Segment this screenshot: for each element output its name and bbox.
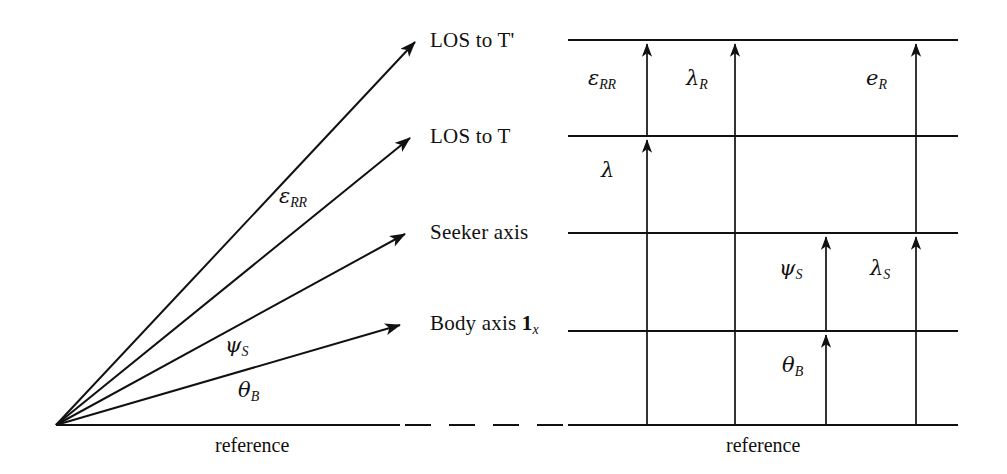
psi-s-subscript: S: [795, 267, 802, 282]
right-panel-axis-lines: [568, 40, 958, 425]
angle-label-theta-b: θB: [238, 380, 259, 404]
ray-seeker-axis: [56, 234, 405, 425]
measure-label-e-r: eR: [866, 68, 887, 92]
epsilon-rr-subscript: RR: [290, 195, 307, 210]
label-seeker-axis: Seeker axis: [430, 222, 528, 243]
measure-label-lambda: λ: [601, 160, 614, 184]
e-glyph: e: [866, 66, 878, 90]
measure-label-lambda-s: λS: [870, 258, 890, 282]
measure-label-theta-b: θB: [782, 355, 803, 379]
angle-label-psi-s: ψS: [225, 335, 248, 359]
theta-glyph: θ: [238, 378, 251, 402]
label-los-to-t-prime: LOS to T': [430, 30, 515, 51]
angle-label-epsilon-rr: εRR: [279, 186, 307, 210]
ray-los-to-t-prime: [56, 42, 415, 425]
psi-glyph: ψ: [225, 333, 241, 357]
theta-b-subscript: B: [251, 389, 259, 404]
measure-label-psi-s: ψS: [779, 258, 802, 282]
figure-canvas: LOS to T' LOS to T Seeker axis Body axis…: [0, 0, 1007, 474]
psi-glyph: ψ: [779, 256, 795, 280]
right-reference-caption: reference: [726, 435, 800, 455]
label-body-axis-subscript: x: [533, 322, 539, 337]
lambda-r-subscript: R: [699, 77, 707, 92]
measure-label-epsilon-rr: εRR: [588, 68, 616, 92]
theta-glyph: θ: [782, 353, 795, 377]
lambda-glyph: λ: [870, 256, 883, 280]
left-panel-rays: [56, 42, 415, 425]
theta-b-subscript: B: [795, 364, 803, 379]
e-r-subscript: R: [878, 77, 886, 92]
ray-los-to-t: [56, 138, 410, 425]
lambda-glyph: λ: [601, 158, 614, 182]
label-body-axis-vector: 1: [522, 311, 533, 335]
epsilon-glyph: ε: [588, 66, 599, 90]
psi-s-subscript: S: [241, 344, 248, 359]
lambda-s-subscript: S: [883, 267, 890, 282]
label-los-to-t: LOS to T: [430, 126, 511, 147]
epsilon-glyph: ε: [279, 184, 290, 208]
lambda-glyph: λ: [686, 66, 699, 90]
label-body-axis: Body axis 1x: [430, 313, 539, 337]
measure-label-lambda-r: λR: [686, 68, 708, 92]
left-reference-caption: reference: [215, 435, 289, 455]
label-body-axis-text: Body axis: [430, 311, 522, 335]
epsilon-rr-subscript: RR: [599, 77, 616, 92]
